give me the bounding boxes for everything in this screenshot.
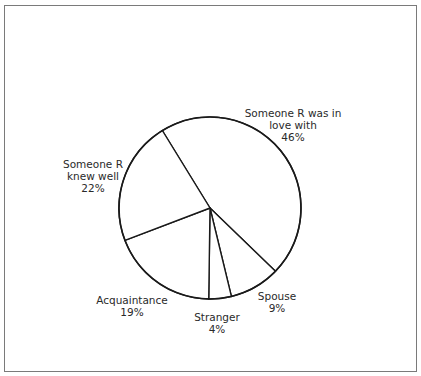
slice-label-line: Acquaintance	[96, 294, 168, 306]
slice-percent: 46%	[281, 131, 304, 143]
slice-label: Stranger4%	[194, 311, 240, 335]
pie-slices	[119, 117, 301, 299]
slice-label-line: Stranger	[194, 311, 240, 323]
slice-label-line: love with	[269, 119, 317, 131]
slice-label-line: Someone R	[63, 158, 123, 170]
slice-percent: 22%	[81, 182, 104, 194]
slice-label-line: knew well	[67, 170, 119, 182]
slice-percent: 4%	[209, 323, 226, 335]
slice-percent: 9%	[269, 302, 286, 314]
slice-label: Someone Rknew well22%	[63, 158, 123, 194]
slice-label: Acquaintance19%	[96, 294, 168, 318]
slice-label: Spouse9%	[258, 290, 296, 314]
slice-percent: 19%	[120, 306, 143, 318]
slice-label-line: Someone R was in	[245, 107, 342, 119]
slice-label-line: Spouse	[258, 290, 296, 302]
pie-chart: Someone R was inlove with46%Spouse9%Stra…	[0, 0, 421, 376]
